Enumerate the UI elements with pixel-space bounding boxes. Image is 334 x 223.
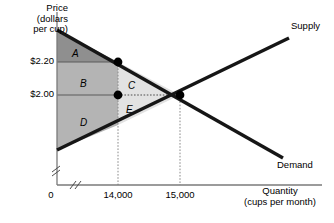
y-axis-title: Price (dollars per cup) bbox=[20, 3, 68, 35]
supply-curve-label: Supply bbox=[291, 21, 320, 32]
marker-demand-at-14000 bbox=[114, 58, 123, 67]
region-label-C: C bbox=[128, 80, 135, 91]
region-D-shape bbox=[57, 95, 118, 150]
region-label-A: A bbox=[72, 48, 79, 59]
y-axis-title-line2: (dollars bbox=[37, 13, 68, 24]
x-tick-label-0: 0 bbox=[44, 190, 58, 201]
x-tick-label-14000: 14,000 bbox=[92, 190, 144, 201]
marker-supply-at-14000 bbox=[114, 91, 123, 100]
y-tick-label-200: $2.00 bbox=[14, 89, 54, 100]
marker-equilibrium bbox=[176, 91, 185, 100]
x-tick-label-15000: 15,000 bbox=[154, 190, 206, 201]
region-label-E: E bbox=[126, 104, 133, 115]
region-label-B: B bbox=[80, 78, 87, 89]
x-axis-title: Quantity (cups per month) bbox=[232, 186, 328, 207]
region-label-D: D bbox=[80, 117, 87, 128]
region-B-shape bbox=[57, 62, 118, 95]
x-axis-title-line2: (cups per month) bbox=[244, 196, 316, 207]
y-tick-label-220: $2.20 bbox=[14, 56, 54, 67]
y-axis-title-line3: per cup) bbox=[33, 23, 68, 34]
y-axis-break-mark bbox=[52, 166, 60, 176]
x-axis-title-line1: Quantity bbox=[262, 185, 297, 196]
y-axis-title-line1: Price bbox=[46, 2, 68, 13]
demand-curve-label: Demand bbox=[277, 160, 313, 171]
